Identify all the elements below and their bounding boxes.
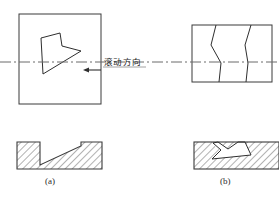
top-view-b-group — [192, 25, 272, 82]
top-view-b-box — [192, 25, 272, 82]
technical-figure: 滚动方向 (a) (b) — [0, 0, 279, 202]
top-view-a-box — [19, 14, 101, 104]
crack-line-right-b — [245, 25, 251, 82]
rolling-direction-label: 滚动方向 — [104, 55, 142, 67]
rolling-direction-arrow — [83, 67, 101, 72]
section-a-group — [17, 142, 102, 169]
section-b-group — [194, 142, 279, 169]
section-b-hatch-fill — [194, 142, 279, 169]
top-view-a-group — [19, 14, 101, 104]
defect-outline-a — [41, 33, 81, 74]
caption-a: (a) — [45, 176, 55, 186]
crack-line-left-b — [211, 25, 221, 82]
figure-canvas — [0, 0, 279, 202]
caption-b: (b) — [220, 176, 231, 186]
